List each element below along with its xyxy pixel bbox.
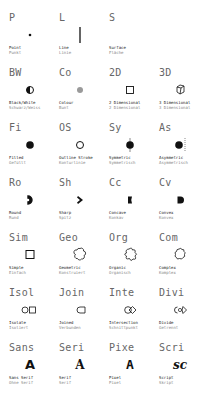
cell-script: Scri sc Script Skript xyxy=(150,342,198,394)
label-de: Organisch xyxy=(109,270,131,275)
cell-surface: S Surface Fläche xyxy=(100,12,148,64)
label-de: Symmetrisch xyxy=(109,160,136,165)
organic-blob-icon xyxy=(110,245,150,265)
label-de: Spitz xyxy=(59,215,71,220)
label-de: Verbunden xyxy=(59,325,81,330)
label-de: Getrennt xyxy=(159,325,178,330)
symmetric-icon xyxy=(110,135,150,155)
label-de: Bunt xyxy=(59,105,69,110)
surface-icon xyxy=(110,25,150,45)
round-icon xyxy=(10,190,50,210)
label-de: Schwarz/Weiss xyxy=(9,105,40,110)
cell-organic: Org Organic Organisch xyxy=(100,232,148,284)
cell-sharp: Sh Sharp Spitz xyxy=(50,177,98,229)
cell-symmetric: Sy Symmetric Symmetrisch xyxy=(100,122,148,174)
row-typography: Sans A Sans Serif Ohne Serif Seri A Seri… xyxy=(0,342,207,394)
code-label: L xyxy=(59,12,65,24)
code-label: Fi xyxy=(9,122,22,134)
code-label: OS xyxy=(59,122,72,134)
code-label: Inte xyxy=(109,287,134,299)
cell-black-white: BW Black/White Schwarz/Weiss xyxy=(0,67,48,119)
joined-icon xyxy=(60,300,100,320)
label-de: 3 Dimensional xyxy=(159,105,190,110)
cell-line: L Line Linie xyxy=(50,12,98,64)
square-icon xyxy=(110,80,150,100)
code-label: Scri xyxy=(159,342,184,354)
label-de: Konturlinie xyxy=(59,160,86,165)
label-de: Ohne Serif xyxy=(9,380,33,385)
row-primitives: P Point Punkt L Line Linie S Surface Flä… xyxy=(0,12,207,64)
cell-round: Ro Round Rund xyxy=(0,177,48,229)
code-label: Sh xyxy=(59,177,72,189)
cell-outline-stroke: OS Outline Stroke Konturlinie xyxy=(50,122,98,174)
sharp-icon xyxy=(60,190,100,210)
isolate-icon xyxy=(10,300,50,320)
simple-square-icon xyxy=(10,245,50,265)
label-de: Pixel xyxy=(109,380,121,385)
cell-geometric: Geo Geometric Konstruiert xyxy=(50,232,98,284)
cell-intersection: Inte Intersection Schnittpunkt xyxy=(100,287,148,339)
serif-glyph-icon: A xyxy=(60,355,100,375)
label-de: Konkav xyxy=(109,215,123,220)
code-label: 2D xyxy=(109,67,122,79)
code-label: Ro xyxy=(9,177,22,189)
code-label: S xyxy=(109,12,115,24)
code-label: Org xyxy=(109,232,128,244)
code-label: Isol xyxy=(9,287,34,299)
pixel-glyph-icon: A xyxy=(110,355,150,375)
cell-3d: 3D 3 Dimensional 3 Dimensional xyxy=(150,67,198,119)
label-de: Rund xyxy=(9,215,19,220)
cell-simple: Sim Simple Einfach xyxy=(0,232,48,284)
cell-pixel: Pixe A Pixel Pixel xyxy=(100,342,148,394)
code-label: Co xyxy=(59,67,72,79)
complex-cloud-icon xyxy=(160,245,200,265)
label-de: Konstruiert xyxy=(59,270,86,275)
row-edge-form: Ro Round Rund Sh Sharp Spitz Cc Concave … xyxy=(0,177,207,229)
convex-icon xyxy=(160,190,200,210)
cell-isolate: Isol Isolate Isoliert xyxy=(0,287,48,339)
cell-point: P Point Punkt xyxy=(0,12,48,64)
code-label: P xyxy=(9,12,15,24)
cell-convex: Cv Convex Konvex xyxy=(150,177,198,229)
cell-asymmetric: As Asymmetric Asymmetrisch xyxy=(150,122,198,174)
code-label: Cv xyxy=(159,177,172,189)
label-de: Einfach xyxy=(9,270,26,275)
row-composition: Isol Isolate Isoliert Join Joined Verbun… xyxy=(0,287,207,339)
cell-joined: Join Joined Verbunden xyxy=(50,287,98,339)
label-de: Punkt xyxy=(9,50,21,55)
outline-circle-icon xyxy=(60,135,100,155)
asymmetric-icon xyxy=(160,135,200,155)
row-color-dimension: BW Black/White Schwarz/Weiss Co Colour B… xyxy=(0,67,207,119)
label-de: Gefüllt xyxy=(9,160,26,165)
code-label: Cc xyxy=(109,177,122,189)
label-de: Schnittpunkt xyxy=(109,325,138,330)
half-circle-icon xyxy=(10,80,50,100)
label-de: Konvex xyxy=(159,215,173,220)
code-label: BW xyxy=(9,67,22,79)
filled-circle-icon xyxy=(10,135,50,155)
code-label: Geo xyxy=(59,232,78,244)
cell-divide: Divi Divide Getrennt xyxy=(150,287,198,339)
cell-colour: Co Colour Bunt xyxy=(50,67,98,119)
row-fill-symmetry: Fi Filled Gefüllt OS Outline Stroke Kont… xyxy=(0,122,207,174)
code-label: Pixe xyxy=(109,342,134,354)
line-icon xyxy=(60,25,100,45)
code-label: Sim xyxy=(9,232,28,244)
code-label: 3D xyxy=(159,67,172,79)
cell-concave: Cc Concave Konkav xyxy=(100,177,148,229)
divide-icon xyxy=(160,300,200,320)
sans-serif-glyph-icon: A xyxy=(10,355,50,375)
label-de: Isoliert xyxy=(9,325,28,330)
code-label: Join xyxy=(59,287,84,299)
label-de: Asymmetrisch xyxy=(159,160,188,165)
script-glyph-icon: sc xyxy=(160,355,200,375)
grey-dot-icon xyxy=(60,80,100,100)
cell-2d: 2D 2 Dimensional 2 Dimensional xyxy=(100,67,148,119)
label-de: Komplex xyxy=(159,270,176,275)
cell-filled: Fi Filled Gefüllt xyxy=(0,122,48,174)
cell-sans-serif: Sans A Sans Serif Ohne Serif xyxy=(0,342,48,394)
row-complexity: Sim Simple Einfach Geo Geometric Konstru… xyxy=(0,232,207,284)
label-de: Skript xyxy=(159,380,173,385)
cell-complex: Com Complex Komplex xyxy=(150,232,198,284)
label-de: 2 Dimensional xyxy=(109,105,140,110)
